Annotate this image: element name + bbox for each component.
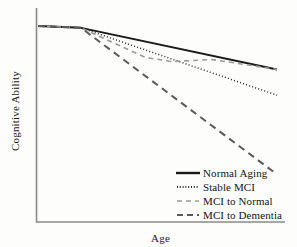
- solid-line-sample: [176, 167, 200, 179]
- legend-item-mci-to-normal: MCI to Normal: [176, 194, 294, 207]
- chart-legend: Normal Aging Stable MCI MCI to Normal MC…: [176, 166, 294, 222]
- legend-label: MCI to Dementia: [203, 209, 282, 221]
- long-dashed-line-sample: [176, 209, 200, 221]
- series-line-normal-aging: [38, 26, 277, 70]
- x-axis-label: Age: [151, 232, 170, 244]
- x-axis-label-wrap: Age: [36, 228, 285, 246]
- short-dashed-line-sample: [176, 195, 200, 207]
- series-line-mci-to-dementia: [38, 26, 277, 175]
- y-axis-label-wrap: Cognitive Ability: [0, 0, 30, 222]
- legend-item-mci-to-dementia: MCI to Dementia: [176, 208, 294, 221]
- legend-label: Normal Aging: [203, 167, 267, 179]
- legend-label: MCI to Normal: [203, 195, 273, 207]
- cognitive-decline-line-chart: Cognitive Ability Age Normal Aging Stabl…: [0, 0, 297, 247]
- legend-label: Stable MCI: [203, 181, 255, 193]
- data-series-group: [38, 26, 277, 175]
- series-line-mci-to-normal: [38, 26, 277, 70]
- legend-item-normal-aging: Normal Aging: [176, 166, 294, 179]
- legend-item-stable-mci: Stable MCI: [176, 180, 294, 193]
- dotted-line-sample: [176, 181, 200, 193]
- y-axis-label: Cognitive Ability: [9, 71, 21, 151]
